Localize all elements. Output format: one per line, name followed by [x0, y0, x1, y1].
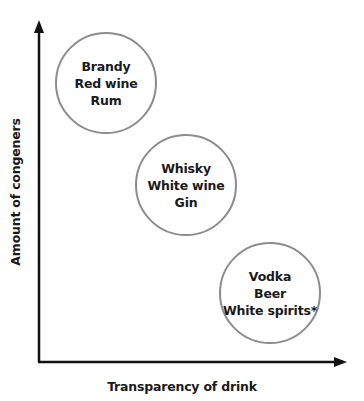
bubble-medium-congeners: Whisky White wine Gin — [135, 134, 237, 236]
bubble-item: White spirits* — [223, 302, 317, 319]
bubble-item: Gin — [175, 194, 198, 211]
bubble-item: Red wine — [74, 75, 137, 92]
y-axis-arrow-icon — [34, 20, 44, 33]
y-axis-label: Amount of congeners — [8, 118, 23, 265]
bubble-high-congeners: Brandy Red wine Rum — [55, 32, 157, 134]
bubble-item: Whisky — [161, 160, 211, 177]
bubble-item: Brandy — [82, 58, 131, 75]
bubble-item: Beer — [254, 285, 286, 302]
x-axis-arrow-icon — [334, 357, 347, 367]
bubble-item: Vodka — [249, 268, 291, 285]
x-axis-label: Transparency of drink — [0, 379, 364, 394]
bubble-item: White wine — [148, 177, 225, 194]
bubble-low-congeners: Vodka Beer White spirits* — [219, 242, 321, 344]
bubble-item: Rum — [91, 92, 122, 109]
